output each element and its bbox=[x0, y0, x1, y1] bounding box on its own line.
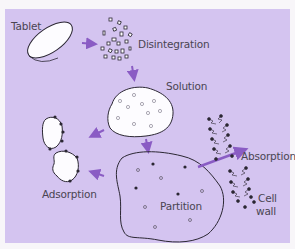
solution-blob bbox=[108, 87, 173, 137]
arrow-partition-to-absorption bbox=[198, 150, 244, 167]
label-solution: Solution bbox=[166, 80, 207, 92]
disintegration-fragments bbox=[101, 18, 132, 60]
arrow-solution-to-adsorption bbox=[92, 130, 104, 136]
adsorption-particles bbox=[42, 115, 79, 182]
partition-blob bbox=[116, 152, 223, 242]
label-partition: Partition bbox=[160, 200, 202, 212]
label-adsorption: Adsorption bbox=[42, 188, 97, 200]
arrow-disintegration-to-solution bbox=[132, 66, 134, 78]
label-absorption: Absorption bbox=[241, 150, 295, 162]
label-cell-wall-line1: Cell bbox=[258, 192, 277, 204]
label-tablet: Tablet bbox=[11, 20, 41, 32]
label-disintegration: Disintegration bbox=[138, 38, 209, 50]
arrow-partition-to-adsorption bbox=[92, 172, 104, 176]
label-cell-wall-line2: wall bbox=[256, 205, 276, 217]
arrow-solution-to-partition bbox=[146, 139, 148, 150]
arrow-tablet-to-disintegration bbox=[82, 43, 94, 44]
